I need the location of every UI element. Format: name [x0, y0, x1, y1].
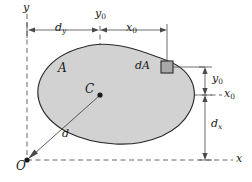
dx-arrow-bottom	[202, 153, 207, 160]
x0-arrow-left	[100, 27, 107, 32]
figure-container: y x x0 y0 x0 dy y0 dx d O C A dA	[0, 0, 252, 182]
dx-arrow-top	[202, 95, 207, 102]
distance-d-label: d	[62, 128, 69, 139]
origin-label: O	[16, 160, 26, 172]
area-label: A	[58, 62, 67, 74]
y0-arrow-top	[202, 67, 207, 74]
centroid-point	[97, 92, 102, 97]
distance-d-arrowhead	[28, 150, 38, 159]
dy-dimension-label: dy	[55, 22, 66, 34]
centroid-label: C	[85, 83, 94, 95]
x0-top-dimension-label: x0	[126, 22, 137, 34]
y0-arrow-bottom	[202, 88, 207, 95]
y0-right-dimension-label: y0	[212, 73, 223, 85]
y-axis-label: y	[23, 2, 29, 13]
x-axis-label: x	[236, 153, 242, 164]
dy-arrow-left	[28, 27, 35, 32]
dy-arrow-right	[92, 27, 99, 32]
area-element-square	[161, 61, 173, 73]
x0-axis-label: x0	[224, 88, 235, 100]
area-element-label: dA	[135, 60, 150, 71]
x0-arrow-right	[160, 27, 167, 32]
y0-top-label: y0	[95, 8, 106, 20]
dx-dimension-label: dx	[211, 118, 222, 130]
